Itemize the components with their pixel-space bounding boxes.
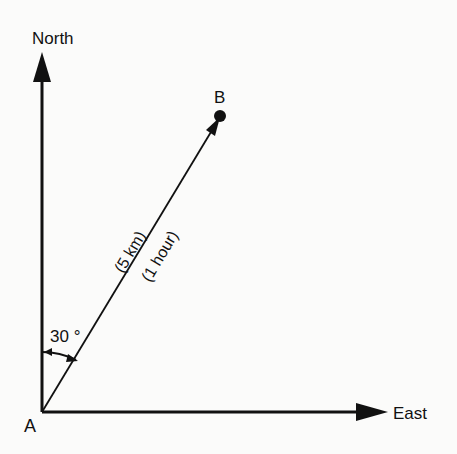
point-b-dot [214, 110, 226, 122]
point-b-label: B [214, 88, 225, 107]
north-arrowhead-icon [33, 52, 51, 82]
angle-label: 30 ° [50, 327, 80, 346]
bearing-diagram: North East A B (5 km) (1 hour) 30 ° [0, 0, 457, 454]
point-a-label: A [24, 416, 36, 436]
north-label: North [32, 29, 74, 48]
east-axis [42, 403, 388, 421]
angle-arc [42, 348, 78, 362]
angle-arrow-left-icon [44, 348, 52, 356]
north-axis [33, 52, 51, 412]
east-arrowhead-icon [356, 403, 388, 421]
east-label: East [393, 404, 427, 423]
